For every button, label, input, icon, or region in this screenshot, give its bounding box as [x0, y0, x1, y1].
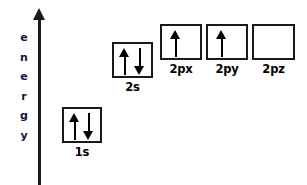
orbital-box-2px [160, 24, 202, 60]
orbital-label-1s: 1s [62, 145, 102, 159]
arrow-shaft [74, 117, 76, 140]
electron-arrow-up [69, 113, 80, 140]
orbital-box-2py [206, 24, 248, 60]
orbital-2py: 2py [206, 24, 248, 76]
orbital-2px: 2px [160, 24, 202, 76]
electron-arrow-up [216, 30, 227, 57]
energy-letter-5: g [20, 106, 28, 126]
orbital-label-2px: 2px [160, 62, 202, 76]
orbital-1s: 1s [62, 107, 102, 159]
energy-letter-2: n [20, 48, 28, 68]
arrow-shaft [88, 113, 90, 136]
arrow-shaft [124, 52, 126, 75]
energy-letter-6: y [20, 126, 27, 146]
orbital-box-1s [62, 107, 102, 143]
electron-arrow-down [134, 48, 145, 75]
energy-axis-line [38, 12, 41, 185]
energy-letter-4: r [21, 87, 26, 107]
orbital-label-2py: 2py [206, 62, 248, 76]
orbital-label-2s: 2s [112, 80, 153, 94]
orbital-label-2pz: 2pz [252, 62, 295, 76]
energy-letter-1: e [20, 28, 27, 48]
energy-axis-label: e n e r g y [15, 28, 33, 145]
electron-arrow-up [170, 30, 181, 57]
orbital-2s: 2s [112, 42, 153, 94]
orbital-box-2s [112, 42, 153, 78]
orbital-diagram-canvas: e n e r g y 1s [0, 0, 307, 185]
arrow-shaft [139, 48, 141, 71]
electron-arrow-down [83, 113, 94, 140]
arrow-shaft [221, 34, 223, 57]
electron-arrow-up [119, 48, 130, 75]
energy-letter-3: e [20, 67, 27, 87]
orbital-box-2pz [252, 24, 295, 60]
orbital-2pz: 2pz [252, 24, 295, 76]
arrow-shaft [175, 34, 177, 57]
